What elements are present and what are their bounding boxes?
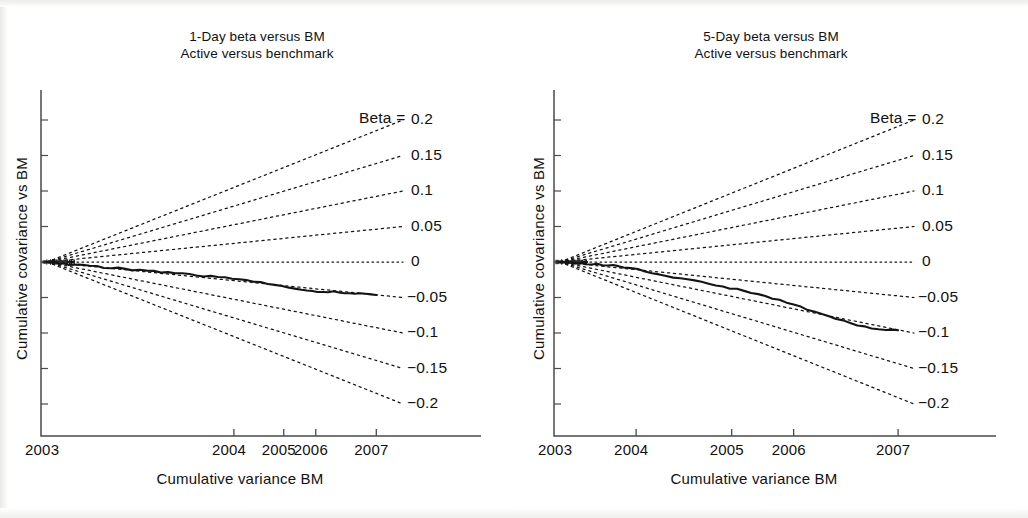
beta-reference-line [47,262,403,333]
beta-line-label: 0.2 [922,110,944,128]
chart-panel-right: 5-Day beta versus BM Active versus bench… [514,0,1028,518]
x-axis-label-right: Cumulative variance BM [544,470,964,487]
x-tick-label: 2005 [262,441,296,458]
chart-subtitle-left: Active versus benchmark [0,45,514,62]
beta-line-label: 0.05 [411,217,442,235]
beta-reference-line [560,262,914,333]
beta-line-label: 0 [411,252,420,270]
beta-line-label: 0.15 [411,146,442,164]
active-series-line [47,262,376,295]
beta-line-label: 0 [922,252,931,270]
beta-reference-line [560,262,914,404]
beta-line-label: −0.1 [918,323,949,341]
x-tick-label: 2004 [212,441,246,458]
beta-line-label: −0.15 [918,359,958,377]
beta-reference-line [47,227,403,263]
chart-title-right: 5-Day beta versus BM [514,28,1028,45]
beta-reference-line [560,262,914,369]
y-axis-label-right: Cumulative covariance vs BM [530,99,547,419]
x-tick-label: 2006 [772,441,806,458]
beta-line-label: −0.05 [407,288,447,306]
beta-reference-line [47,262,403,404]
x-tick-label: 2006 [294,441,328,458]
x-tick-label: 2004 [614,441,648,458]
beta-line-label: −0.15 [407,359,447,377]
beta-line-label: −0.2 [407,394,438,412]
beta-reference-line [560,262,914,298]
y-axis-label-left: Cumulative covariance vs BM [13,99,30,419]
active-series-line [560,262,898,330]
origin-data-cluster [556,259,587,264]
chart-panel-left: 1-Day beta versus BM Active versus bench… [0,0,514,518]
plot-svg-right [550,82,1006,438]
x-axis-label-left: Cumulative variance BM [40,470,440,487]
beta-reference-line [560,156,914,263]
x-tick-label: 2005 [710,441,744,458]
beta-reference-line [560,191,914,262]
beta-reference-line [47,156,403,263]
plot-area-left: 200320042005200620070.20.150.10.050−0.05… [39,82,491,438]
beta-line-label: −0.1 [407,323,438,341]
beta-line-label: 0.1 [922,181,944,199]
beta-line-label: 0.05 [922,217,953,235]
plot-area-right: 200320042005200620070.20.150.10.050−0.05… [550,82,1006,438]
x-tick-label: 2007 [876,441,910,458]
beta-line-label: 0.1 [411,181,433,199]
chart-subtitle-right: Active versus benchmark [514,45,1028,62]
beta-line-label: 0.15 [922,146,953,164]
beta-legend-title: Beta = [870,109,916,127]
beta-reference-line [47,191,403,262]
x-tick-label: 2007 [354,441,388,458]
x-tick-label: 2003 [538,441,572,458]
beta-reference-line [47,120,403,262]
beta-line-label: 0.2 [411,110,433,128]
beta-line-label: −0.05 [918,288,958,306]
plot-svg-left [39,82,491,438]
beta-legend-title: Beta = [359,109,405,127]
x-tick-label: 2003 [25,441,59,458]
beta-reference-line [560,227,914,263]
chart-title-left: 1-Day beta versus BM [0,28,514,45]
beta-reference-line [560,120,914,262]
beta-line-label: −0.2 [918,394,949,412]
